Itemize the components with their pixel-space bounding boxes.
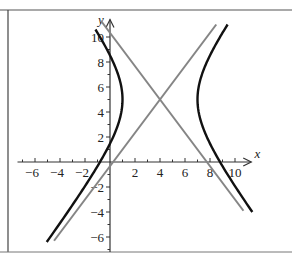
y-tick-label: −4 <box>90 205 104 220</box>
y-tick-label: 4 <box>98 105 105 120</box>
axes: −6−4−2246810−6−4−2246810xy <box>18 12 261 252</box>
hyperbola-left-branch <box>47 30 123 243</box>
asymptote-rising <box>54 25 216 241</box>
chart-frame: −6−4−2246810−6−4−2246810xy <box>0 0 292 257</box>
y-tick-label: 2 <box>98 130 105 145</box>
y-tick-label: −6 <box>90 230 104 245</box>
asymptote-falling <box>101 21 244 211</box>
y-tick-label: 6 <box>98 80 105 95</box>
x-tick-label: −4 <box>50 165 64 180</box>
x-axis-label: x <box>254 146 261 161</box>
x-tick-label: −6 <box>25 165 39 180</box>
curves <box>47 21 253 242</box>
hyperbola-right-branch <box>198 25 253 213</box>
x-tick-label: 6 <box>182 165 189 180</box>
y-tick-label: 8 <box>98 55 105 70</box>
x-tick-label: −2 <box>75 165 89 180</box>
x-tick-label: 4 <box>157 165 164 180</box>
x-tick-label: 2 <box>132 165 139 180</box>
hyperbola-plot: −6−4−2246810−6−4−2246810xy <box>0 0 292 257</box>
